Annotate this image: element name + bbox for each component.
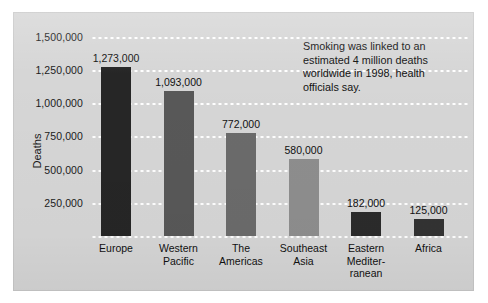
y-axis-tick-label: 1,000,000 xyxy=(13,97,83,109)
y-axis-tick-label: 500,000 xyxy=(13,164,83,176)
chart-screenshot: Deaths 1,500,0001,250,0001,000,000750,00… xyxy=(0,0,488,303)
y-axis-tick-label: 750,000 xyxy=(13,130,83,142)
bar xyxy=(164,91,194,236)
gridline xyxy=(91,103,469,105)
bar xyxy=(351,212,381,236)
bar-value-label: 182,000 xyxy=(347,197,385,209)
plot-area: Deaths 1,500,0001,250,0001,000,000750,00… xyxy=(13,12,474,291)
x-axis-category-label: Africa xyxy=(391,242,467,255)
bar-value-label: 1,093,000 xyxy=(155,76,202,88)
bar-value-label: 1,273,000 xyxy=(93,52,140,64)
y-axis-tick-label: 1,250,000 xyxy=(13,64,83,76)
y-axis-tick-label: 1,500,000 xyxy=(13,31,83,43)
bar xyxy=(101,67,131,236)
bar xyxy=(226,133,256,236)
annotation-text: Smoking was linked to an estimated 4 mil… xyxy=(303,40,463,94)
axis-baseline xyxy=(91,236,469,238)
gridline xyxy=(91,170,469,172)
bar xyxy=(414,219,444,236)
y-axis-tick-label: 250,000 xyxy=(13,197,83,209)
bar xyxy=(289,159,319,236)
bar-value-label: 125,000 xyxy=(410,204,448,216)
gridline xyxy=(91,37,469,39)
bar-value-label: 772,000 xyxy=(222,118,260,130)
chart-panel: Deaths 1,500,0001,250,0001,000,000750,00… xyxy=(13,12,474,291)
gridline xyxy=(91,136,469,138)
bar-value-label: 580,000 xyxy=(285,144,323,156)
